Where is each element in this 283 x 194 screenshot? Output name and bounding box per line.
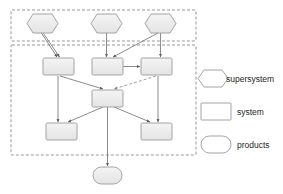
legend-rect-icon	[201, 103, 231, 120]
connector-system1-center	[60, 76, 103, 89]
system-node-1[interactable]	[43, 58, 74, 75]
connector-center-system5	[114, 107, 150, 122]
system-node-5[interactable]	[141, 123, 172, 140]
system-node-4[interactable]	[46, 123, 77, 140]
supersystem-nodes	[27, 14, 176, 33]
connector-system3-center	[114, 76, 156, 89]
legend-item-supersystem[interactable]: supersystem	[198, 70, 274, 87]
legend-hexagon-icon	[198, 70, 228, 87]
system-hierarchy-diagram: supersystem system products	[0, 0, 283, 194]
diagram-canvas: supersystem system products	[0, 0, 283, 194]
supersystem-node-2[interactable]	[91, 14, 122, 33]
system-node-3[interactable]	[141, 58, 172, 75]
supersystem-node-1[interactable]	[27, 14, 58, 33]
legend-stadium-icon	[201, 136, 231, 153]
system-node-center[interactable]	[92, 90, 123, 107]
system-node-2[interactable]	[92, 58, 123, 75]
legend-item-products[interactable]: products	[201, 136, 270, 153]
legend-label-products: products	[237, 140, 270, 150]
legend-label-system: system	[237, 107, 264, 117]
product-node-1[interactable]	[93, 167, 122, 184]
legend: supersystem system products	[198, 70, 274, 153]
connector-center-system4	[68, 107, 103, 122]
legend-item-system[interactable]: system	[201, 103, 264, 120]
supersystem-node-3[interactable]	[145, 14, 176, 33]
legend-label-supersystem: supersystem	[226, 74, 274, 84]
